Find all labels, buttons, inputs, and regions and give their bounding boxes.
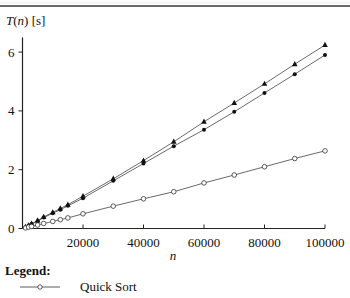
triangle-marker-icon	[201, 119, 207, 124]
filled-circle-marker-icon	[111, 179, 115, 183]
y-tick-label: 6	[8, 45, 15, 60]
open-circle-marker-icon	[41, 221, 46, 226]
x-tick-label: 40000	[127, 235, 160, 250]
line-chart: 024620000400006000080000100000n	[0, 0, 350, 298]
open-circle-marker-icon	[35, 223, 40, 228]
axes: 024620000400006000080000100000n	[8, 37, 345, 263]
filled-circle-marker-icon	[51, 211, 55, 215]
open-circle-marker-icon	[262, 164, 267, 169]
y-tick-label: 0	[8, 221, 15, 236]
triangle-marker-icon	[292, 61, 298, 66]
triangle-marker-icon	[171, 139, 177, 144]
x-tick-label: 80000	[248, 235, 281, 250]
open-circle-marker-icon	[20, 282, 60, 292]
triangle-marker-icon	[231, 100, 237, 105]
x-tick-label: 100000	[306, 235, 345, 250]
filled-circle-marker-icon	[293, 72, 297, 76]
filled-circle-marker-icon	[232, 110, 236, 114]
data-series	[23, 42, 328, 230]
triangle-marker-icon	[262, 81, 268, 86]
open-circle-marker-icon	[141, 197, 146, 202]
open-circle-marker-icon	[202, 181, 207, 186]
y-tick-label: 2	[8, 162, 15, 177]
x-tick-label: 60000	[188, 235, 221, 250]
filled-circle-marker-icon	[58, 208, 62, 212]
series-open-circle	[23, 149, 328, 231]
open-circle-marker-icon	[66, 216, 71, 221]
open-circle-marker-icon	[29, 224, 34, 229]
legend-label: Quick Sort	[80, 279, 137, 295]
triangle-marker-icon	[322, 42, 328, 47]
series-line	[23, 45, 326, 228]
filled-circle-marker-icon	[202, 128, 206, 132]
filled-circle-marker-icon	[42, 216, 46, 220]
legend-title: Legend:	[5, 263, 51, 279]
series-triangle	[23, 42, 328, 229]
legend-item-quick-sort: Quick Sort	[20, 279, 137, 295]
open-circle-marker-icon	[58, 217, 63, 222]
x-tick-label: 20000	[67, 235, 100, 250]
open-circle-marker-icon	[292, 156, 297, 161]
filled-circle-marker-icon	[81, 196, 85, 200]
filled-circle-marker-icon	[142, 162, 146, 166]
filled-circle-marker-icon	[172, 144, 176, 148]
filled-circle-marker-icon	[263, 91, 267, 95]
open-circle-marker-icon	[232, 173, 237, 178]
open-circle-marker-icon	[323, 149, 328, 154]
filled-circle-marker-icon	[323, 53, 327, 57]
y-tick-label: 4	[8, 103, 15, 118]
filled-circle-marker-icon	[66, 204, 70, 208]
x-axis-label: n	[170, 248, 177, 263]
open-circle-marker-icon	[81, 212, 86, 217]
open-circle-marker-icon	[50, 219, 55, 224]
open-circle-marker-icon	[111, 204, 116, 209]
open-circle-marker-icon	[171, 189, 176, 194]
